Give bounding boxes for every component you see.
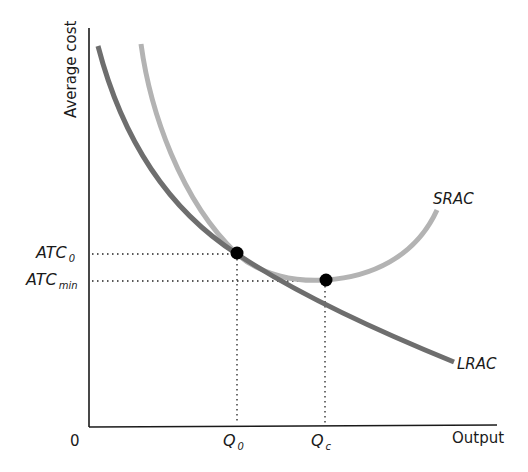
atcmin-label: ATCmin [26, 272, 78, 288]
atc0-label: ATC0 [36, 245, 75, 261]
srac-label: SRAC [433, 192, 474, 207]
tangency-point [231, 247, 244, 260]
q0-main: Q [223, 431, 236, 450]
qc-main: Q [311, 431, 324, 450]
srac-curve [141, 44, 437, 280]
x-axis-label: Output [452, 431, 504, 446]
lrac-label: LRAC [457, 357, 497, 372]
qc-subscript: c [326, 441, 332, 452]
srac-minimum-point [320, 274, 333, 287]
y-axis-label: Average cost [62, 21, 80, 119]
q0-label: Q0 [223, 433, 244, 449]
qc-label: Qc [311, 433, 331, 449]
origin-label: 0 [70, 434, 80, 449]
atcmin-subscript: min [59, 280, 78, 291]
x-axis [89, 425, 497, 427]
atcmin-main: ATC [26, 270, 57, 289]
atc0-main: ATC [36, 243, 67, 262]
q0-subscript: 0 [238, 441, 244, 452]
atc0-subscript: 0 [69, 253, 75, 264]
